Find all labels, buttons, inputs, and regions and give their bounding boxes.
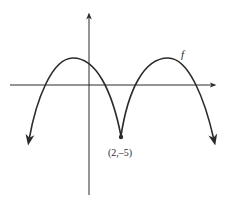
function-graph: f (2,–5) (0, 0, 232, 204)
cusp-point-marker (119, 135, 123, 139)
cusp-point-label: (2,–5) (108, 147, 132, 159)
curve-left-arc (29, 58, 121, 140)
function-label: f (181, 48, 186, 60)
curve-right-arc (121, 58, 214, 140)
